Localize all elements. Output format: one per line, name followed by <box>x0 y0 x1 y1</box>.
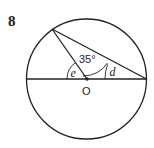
angle-label-35: 35° <box>79 53 96 65</box>
center-point <box>85 77 89 81</box>
circle-geometry-figure: 35° e d O <box>0 0 154 148</box>
angle-label-d: d <box>110 65 117 79</box>
angle-label-e: e <box>71 66 77 80</box>
angle-arc-d <box>105 65 108 80</box>
center-label-o: O <box>82 85 91 97</box>
